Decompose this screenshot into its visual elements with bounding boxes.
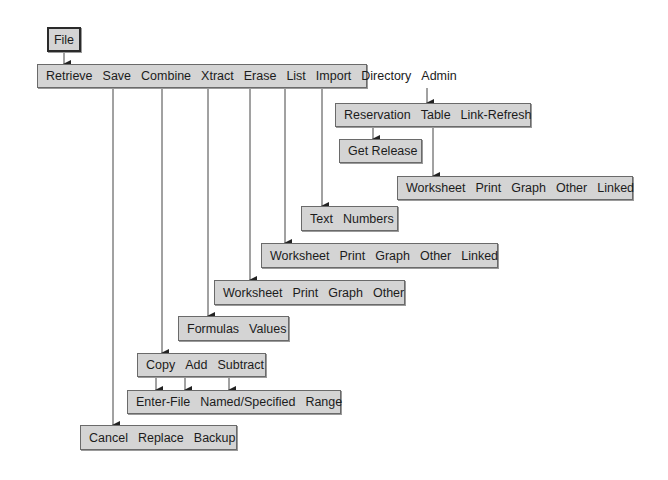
menu-item-graph[interactable]: Graph [375,249,410,263]
menu-item-list[interactable]: List [286,69,305,83]
menu-item-print[interactable]: Print [476,181,502,195]
menu-item-reservation[interactable]: Reservation [344,108,411,122]
menu-item-graph[interactable]: Graph [511,181,546,195]
menu-item-cancel[interactable]: Cancel [89,431,128,445]
menu-item-print[interactable]: Print [293,286,319,300]
menu-item-other[interactable]: Other [373,286,404,300]
menu-item-subtract[interactable]: Subtract [217,358,264,372]
file-menu-box[interactable]: File [47,27,81,52]
menu-item-replace[interactable]: Replace [138,431,184,445]
combine-submenu: Copy Add Subtract [137,353,266,377]
menu-item-worksheet[interactable]: Worksheet [223,286,283,300]
menu-item-admin[interactable]: Admin [421,69,456,83]
save-submenu: Cancel Replace Backup [80,425,237,450]
menu-item-linked[interactable]: Linked [461,249,498,263]
menu-item-table[interactable]: Table [421,108,451,122]
menu-item-save[interactable]: Save [103,69,132,83]
table-submenu: Worksheet Print Graph Other Linked [397,176,633,200]
menu-item-get-release[interactable]: Get Release [348,144,417,158]
main-menu-bar: Retrieve Save Combine Xtract Erase List … [37,64,367,88]
menu-item-other[interactable]: Other [556,181,587,195]
menu-item-worksheet[interactable]: Worksheet [270,249,330,263]
menu-item-print[interactable]: Print [340,249,366,263]
list-submenu: Worksheet Print Graph Other Linked [261,243,498,268]
menu-item-retrieve[interactable]: Retrieve [46,69,93,83]
menu-item-numbers[interactable]: Numbers [343,212,394,226]
menu-item-formulas[interactable]: Formulas [187,322,239,336]
menu-item-import[interactable]: Import [316,69,351,83]
reservation-submenu: Get Release [339,139,422,163]
menu-item-add[interactable]: Add [185,358,207,372]
menu-tree-diagram: File Retrieve Save Combine Xtract Erase … [0,0,668,480]
xtract-submenu: Formulas Values [178,316,289,341]
erase-submenu: Worksheet Print Graph Other [214,280,405,305]
menu-item-range[interactable]: Range [305,395,342,409]
combine-target-submenu: Enter-File Named/Specified Range [127,390,341,414]
admin-submenu: Reservation Table Link-Refresh [335,103,531,127]
menu-item-graph[interactable]: Graph [328,286,363,300]
menu-item-copy[interactable]: Copy [146,358,175,372]
menu-item-xtract[interactable]: Xtract [201,69,234,83]
menu-item-named-specified[interactable]: Named/Specified [200,395,295,409]
menu-item-text[interactable]: Text [310,212,333,226]
menu-item-values[interactable]: Values [249,322,286,336]
menu-item-backup[interactable]: Backup [194,431,236,445]
menu-item-other[interactable]: Other [420,249,451,263]
menu-item-link-refresh[interactable]: Link-Refresh [461,108,532,122]
file-label: File [54,33,74,47]
menu-item-linked[interactable]: Linked [597,181,634,195]
menu-item-worksheet[interactable]: Worksheet [406,181,466,195]
menu-item-erase[interactable]: Erase [244,69,277,83]
import-submenu: Text Numbers [301,206,398,231]
menu-item-combine[interactable]: Combine [141,69,191,83]
menu-item-enter-file[interactable]: Enter-File [136,395,190,409]
menu-item-directory[interactable]: Directory [361,69,411,83]
